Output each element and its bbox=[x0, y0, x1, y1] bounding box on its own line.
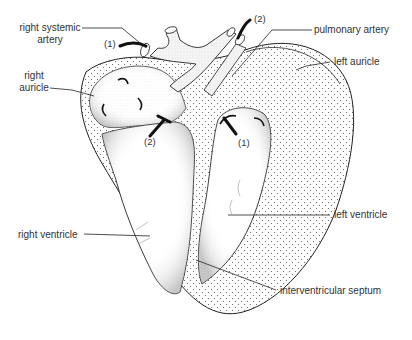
marker-probe-pulmonary: (2) bbox=[254, 13, 266, 24]
label-line-2: auricle bbox=[16, 82, 52, 94]
label-line-2: artery bbox=[18, 34, 82, 46]
label-interventricular-septum: interventricular septum bbox=[280, 285, 381, 297]
marker-probe-left-av: (1) bbox=[238, 137, 250, 148]
label-pulmonary-artery: pulmonary artery bbox=[314, 24, 389, 36]
label-right-auricle: right auricle bbox=[16, 70, 52, 94]
heart-diagram: right systemic artery right auricle pulm… bbox=[0, 0, 412, 340]
label-line-1: right systemic bbox=[18, 22, 82, 34]
label-right-systemic-artery: right systemic artery bbox=[18, 22, 82, 46]
marker-probe-systemic: (1) bbox=[104, 38, 116, 49]
label-right-ventricle: right ventricle bbox=[18, 229, 77, 241]
label-line-1: right bbox=[16, 70, 52, 82]
marker-probe-right-av: (2) bbox=[144, 136, 156, 147]
label-left-ventricle: left ventricle bbox=[334, 209, 387, 221]
label-left-auricle: left auricle bbox=[334, 56, 380, 68]
